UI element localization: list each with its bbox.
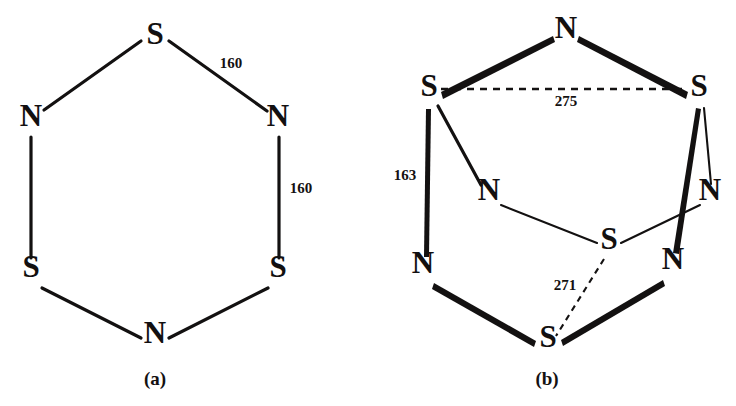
atom-label-b-s-right: S bbox=[690, 68, 707, 103]
atom-label-b-n-inner-right: N bbox=[699, 172, 721, 207]
bond-s-left-n-bottom bbox=[42, 288, 141, 338]
atom-label-a-n-left: N bbox=[20, 98, 42, 133]
bond-b-ninleft-scenter bbox=[501, 205, 597, 243]
atom-label-b-n-top: N bbox=[555, 10, 577, 45]
molecular-structure-figure: S N N S S N 160 160 (a) bbox=[0, 0, 736, 406]
bond-length-label-b-163: 163 bbox=[394, 167, 417, 183]
atom-label-a-s-top: S bbox=[146, 16, 163, 51]
bond-length-label-a-2: 160 bbox=[290, 180, 313, 196]
bond-b-sright-nbotright bbox=[673, 108, 701, 254]
bond-s-right-n-bottom bbox=[169, 288, 268, 338]
atom-label-b-n-inner-left: N bbox=[478, 172, 500, 207]
panel-a-group: S N N S S N 160 160 (a) bbox=[20, 16, 312, 390]
contact-length-label-b-275: 275 bbox=[555, 93, 578, 109]
bond-b-nbotright-sbottom bbox=[561, 280, 665, 346]
bond-b-sleft-ninleft bbox=[438, 106, 481, 185]
figure-canvas: S N N S S N 160 160 (a) bbox=[0, 0, 736, 406]
panel-b-caption: (b) bbox=[535, 368, 558, 390]
atom-label-b-n-bottom-left: N bbox=[412, 245, 434, 280]
atom-label-a-s-left: S bbox=[22, 249, 39, 284]
atom-label-b-s-left: S bbox=[420, 68, 437, 103]
bond-s-top-n-left bbox=[44, 41, 141, 110]
bond-b-scenter-ninright bbox=[621, 205, 700, 243]
bond-b-sright-ntop bbox=[577, 36, 688, 99]
panel-b-bonds bbox=[424, 36, 711, 347]
atom-label-a-s-right: S bbox=[269, 249, 286, 284]
contact-length-label-b-271: 271 bbox=[554, 277, 577, 293]
atom-label-a-n-bottom: N bbox=[144, 315, 166, 350]
atom-label-b-s-center: S bbox=[600, 221, 617, 256]
bond-length-label-a-1: 160 bbox=[220, 55, 243, 71]
atom-label-b-n-bottom-right: N bbox=[662, 241, 684, 276]
panel-b-group: N S S N N S N N S 275 163 271 (b) bbox=[394, 10, 721, 390]
panel-a-caption: (a) bbox=[144, 368, 166, 390]
bond-b-nbotleft-sbottom bbox=[432, 283, 536, 347]
bond-s-top-n-right bbox=[169, 41, 267, 111]
atom-label-b-s-bottom: S bbox=[539, 319, 556, 354]
bond-b-sleft-nbotleft bbox=[424, 109, 431, 257]
atom-label-a-n-right: N bbox=[267, 98, 289, 133]
panel-a-bonds bbox=[31, 41, 279, 338]
